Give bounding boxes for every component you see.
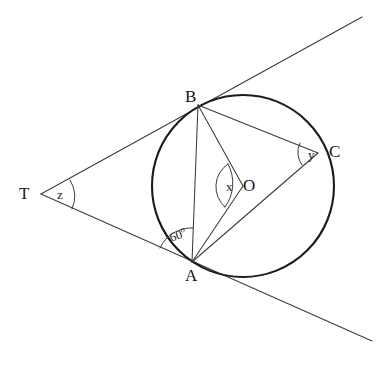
radius-OB [198, 105, 243, 186]
angle-label-y: y [308, 148, 315, 161]
chord-BC [198, 105, 318, 153]
point-label-T: T [19, 185, 29, 202]
point-label-A: A [185, 267, 197, 284]
chord-AB [192, 105, 198, 262]
tangent-line-TA [41, 194, 372, 341]
point-label-O: O [243, 177, 255, 194]
geometry-canvas [0, 0, 387, 371]
point-label-C: C [329, 143, 340, 160]
angle-label-z: z [57, 188, 63, 201]
chord-AC [192, 153, 318, 262]
geometry-figure: A B C O T 60o x y z [0, 0, 387, 371]
angle-label-x: x [226, 180, 233, 193]
angle-arc-T [70, 180, 75, 209]
point-label-B: B [185, 88, 196, 105]
